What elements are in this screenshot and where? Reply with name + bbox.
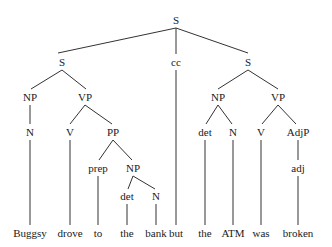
syntax-tree-figure: S S cc S NP VP NP VP N V PP det N V AdjP… — [0, 0, 332, 247]
leaf-atm: ATM — [221, 228, 244, 239]
node-adj: adj — [291, 163, 304, 174]
node-prep: prep — [88, 163, 108, 174]
node-pp-det: det — [120, 191, 133, 202]
edge-ppnp-to-det — [128, 176, 133, 189]
edge-right-s-to-vp — [248, 70, 278, 89]
edge-right-vp-to-adjp — [278, 105, 296, 124]
node-pp: PP — [107, 127, 119, 138]
edge-left-vp-to-v — [70, 105, 85, 124]
node-right-v: V — [257, 127, 265, 138]
edge-pp-to-np — [113, 140, 132, 160]
node-cc: cc — [171, 57, 181, 68]
node-left-v: V — [66, 127, 74, 138]
edge-root-to-left-s — [58, 28, 176, 53]
edge-ppnp-to-n — [133, 176, 155, 189]
leaf-the-1: the — [120, 228, 133, 239]
leaf-bank: bank — [145, 228, 166, 239]
edge-left-s-to-vp — [62, 70, 86, 89]
node-right-det: det — [198, 127, 211, 138]
leaf-was: was — [252, 228, 269, 239]
leaf-the-2: the — [198, 228, 211, 239]
leaf-but: but — [169, 228, 183, 239]
node-root-s: S — [173, 15, 179, 26]
node-right-np: NP — [211, 92, 225, 103]
node-right-n: N — [229, 127, 237, 138]
node-left-s: S — [59, 57, 65, 68]
node-adjp: AdjP — [287, 127, 310, 138]
edge-left-s-to-np — [31, 70, 62, 89]
node-left-vp: VP — [78, 92, 92, 103]
leaf-broken: broken — [283, 228, 314, 239]
edge-right-s-to-np — [218, 70, 248, 89]
node-right-s: S — [245, 57, 251, 68]
edge-right-np-to-n — [218, 105, 232, 124]
tree-edge-layer — [0, 0, 332, 247]
node-left-np: NP — [23, 92, 37, 103]
edge-left-vp-to-pp — [85, 105, 112, 124]
edge-right-np-to-det — [206, 105, 218, 124]
node-pp-np: NP — [126, 163, 140, 174]
node-left-n: N — [26, 127, 34, 138]
leaf-to: to — [94, 228, 103, 239]
leaf-buggsy: Buggsy — [13, 228, 47, 239]
leaf-drove: drove — [57, 228, 82, 239]
edge-pp-to-prep — [99, 140, 113, 160]
edge-right-vp-to-v — [262, 105, 278, 124]
edge-root-to-right-s — [176, 28, 248, 53]
node-right-vp: VP — [271, 92, 285, 103]
node-pp-n: N — [152, 191, 160, 202]
